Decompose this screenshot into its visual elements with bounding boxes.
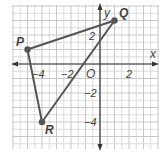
point-label-p: P — [16, 35, 25, 49]
point-label-r: R — [45, 123, 54, 137]
x-axis-left-arrow-icon — [11, 62, 18, 67]
coordinate-plane: x y O −4 −2 2 2 −2 −4 P Q R — [0, 0, 167, 156]
origin-label: O — [86, 67, 95, 81]
x-tick-label-neg4: −4 — [32, 68, 45, 80]
y-tick-label-neg4: −4 — [84, 116, 97, 128]
x-tick-label-neg2: −2 — [61, 68, 74, 80]
x-axis-label: x — [149, 47, 157, 61]
y-axis-label: y — [103, 6, 111, 20]
point-q — [111, 17, 117, 23]
point-p — [24, 46, 30, 52]
point-label-q: Q — [119, 6, 129, 20]
x-tick-label-2: 2 — [125, 68, 132, 80]
y-axis-bottom-arrow-icon — [98, 144, 103, 151]
y-tick-label-2: 2 — [88, 30, 95, 42]
y-tick-label-neg2: −2 — [84, 87, 97, 99]
